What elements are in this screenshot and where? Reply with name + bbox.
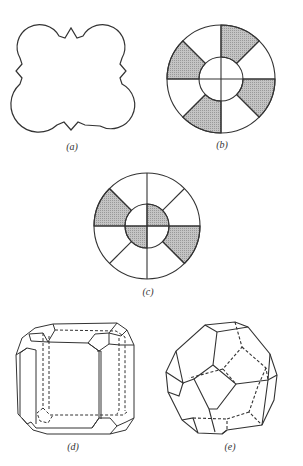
panel-c-shape [94,173,200,279]
panel-a-shape [11,25,135,133]
figure-canvas [0,0,303,466]
panel-a-label: (a) [66,141,78,152]
panel-c-label: (c) [142,286,153,297]
panel-d-label: (d) [67,441,79,452]
panel-e-shape [166,322,277,434]
panel-b-label: (b) [216,139,228,150]
panel-d-shape [16,323,134,434]
panel-b-shape [167,25,275,133]
panel-e-label: (e) [224,441,235,452]
